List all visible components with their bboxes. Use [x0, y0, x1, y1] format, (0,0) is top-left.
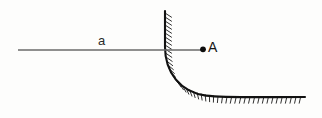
optics-diagram-figure: a A [0, 0, 322, 118]
point-label-A: A [208, 40, 217, 54]
curved-boundary [165, 11, 305, 97]
diagram-canvas [0, 0, 322, 118]
point-A-marker [200, 46, 206, 52]
boundary-hatching [165, 13, 301, 103]
ray-label-a: a [98, 34, 105, 47]
